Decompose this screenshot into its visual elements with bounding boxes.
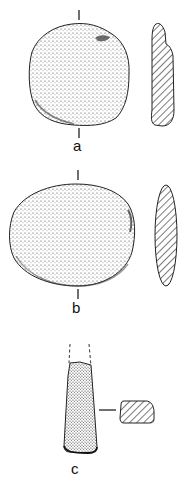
artifact-a-profile-section [151, 23, 174, 126]
label-c: c [71, 461, 79, 476]
reconstruction-line-left [69, 344, 70, 363]
artifact-a [29, 10, 174, 138]
label-a: a [73, 138, 81, 153]
artifact-c-cross-section [120, 401, 154, 423]
artifact-b-profile-section [155, 185, 177, 286]
artifact-c-face [64, 362, 97, 453]
reconstruction-line-right [89, 344, 91, 366]
artifact-drawing-plate [0, 0, 188, 484]
artifact-b [10, 170, 178, 299]
label-b: b [72, 300, 80, 315]
artifact-c [64, 344, 154, 453]
